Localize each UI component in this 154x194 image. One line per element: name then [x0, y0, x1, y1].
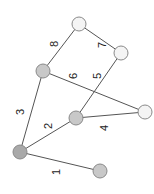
graph-node-B — [93, 164, 107, 178]
edge-weight-labels-layer: 12345678 — [14, 41, 110, 175]
edge-weight-label: 7 — [96, 42, 108, 48]
edges-layer — [20, 24, 145, 171]
graph-node-C — [36, 64, 50, 78]
edge-D-G — [76, 53, 121, 118]
edge-weight-label: 3 — [14, 109, 26, 115]
graph-node-D — [69, 111, 83, 125]
edge-D-E — [76, 112, 145, 118]
edge-weight-label: 6 — [67, 73, 79, 79]
edge-weight-label: 1 — [50, 169, 62, 175]
nodes-layer — [13, 17, 152, 178]
edge-weight-label: 2 — [42, 123, 54, 129]
graph-node-A — [13, 145, 27, 159]
edge-A-B — [20, 152, 100, 171]
edge-weight-label: 4 — [98, 125, 110, 131]
weighted-graph-diagram: 12345678 — [0, 0, 154, 194]
edge-weight-label: 8 — [48, 41, 60, 47]
graph-node-E — [138, 105, 152, 119]
edge-weight-label: 5 — [91, 73, 103, 79]
graph-node-G — [114, 46, 128, 60]
graph-node-F — [72, 17, 86, 31]
